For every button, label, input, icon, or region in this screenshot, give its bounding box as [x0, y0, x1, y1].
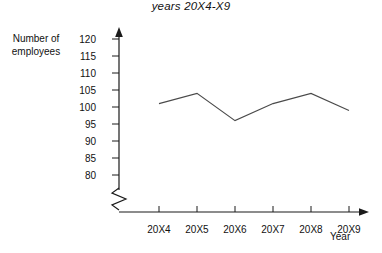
y-axis-arrow-icon — [115, 27, 123, 37]
x-axis — [119, 206, 369, 216]
y-axis — [112, 27, 123, 190]
line-chart: years 20X4-X9 Number of employees 120 11… — [0, 0, 382, 253]
data-series-line — [159, 93, 349, 120]
y-axis-break-icon — [112, 188, 126, 210]
x-axis-arrow-icon — [359, 208, 369, 216]
plot-area — [0, 0, 382, 253]
